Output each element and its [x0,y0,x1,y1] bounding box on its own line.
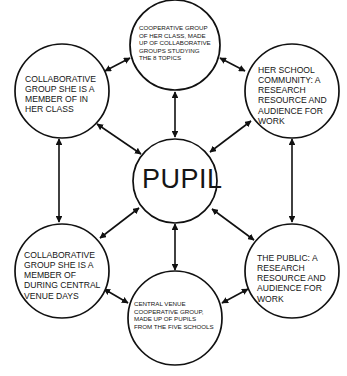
arrow-pupil-upper-left [97,124,141,154]
node-label-upper-left: COLLABORATIVE GROUP SHE IS A MEMBER OF I… [25,74,105,115]
arrow-top-upper-right [220,58,245,71]
node-label-pupil: PUPIL [142,164,212,194]
node-label-top: COOPERATIVE GROUP OF HER CLASS, MADE UP … [139,24,219,62]
node-label-bottom: CENTRAL VENUE COOPERATIVE GROUP, MADE UP… [134,300,219,330]
arrow-pupil-upper-right [210,121,251,152]
arrow-pupil-lower-right [212,209,254,240]
node-label-lower-right: THE PUBLIC: A RESEARCH RESOURCE AND AUDI… [257,253,337,304]
arrow-upper-left-top [105,58,130,71]
node-label-upper-right: HER SCHOOL COMMUNITY: A RESEARCH RESOURC… [258,65,338,126]
node-label-lower-left: COLLABORATIVE GROUP SHE IS A MEMBER OF D… [24,250,104,301]
arrow-bottom-lower-left [104,289,128,303]
arrow-lower-right-bottom [222,289,248,303]
arrow-pupil-lower-left [100,208,139,238]
